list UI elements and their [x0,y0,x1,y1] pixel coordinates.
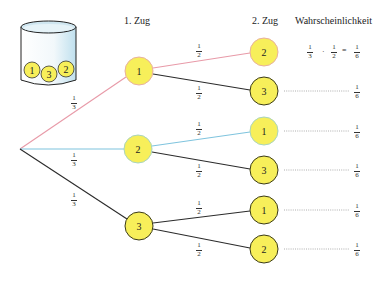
svg-text:1: 1 [262,205,267,216]
prob-3-2: 12 [195,242,203,258]
result-3-2: 16 [353,242,361,258]
svg-text:1: 1 [137,66,142,77]
node-second-2-1: 1 [250,117,278,145]
svg-text:1: 1 [30,65,35,76]
prob-2-1: 12 [195,121,203,137]
result-3-1: 16 [353,203,361,219]
svg-text:3: 3 [137,221,142,232]
urn-icon: 1 3 2 [21,21,76,85]
result-dotted-lines [284,91,350,249]
prob-3-1: 12 [195,200,203,216]
prob-root-1: 13 [70,95,78,111]
node-first-3: 3 [125,212,153,240]
node-first-1: 1 [125,57,153,85]
svg-text:1: 1 [262,126,267,137]
formula-b: 12 [330,44,338,60]
svg-text:2: 2 [64,64,69,75]
prob-1-2: 12 [195,43,203,59]
result-2-1: 16 [353,124,361,140]
prob-1-3: 12 [195,85,203,101]
prob-root-2: 13 [70,152,78,168]
formula-a: 13 [306,44,314,60]
svg-text:2: 2 [262,244,267,255]
svg-text:3: 3 [47,69,52,80]
node-second-2-3: 3 [250,156,278,184]
svg-text:2: 2 [136,144,141,155]
node-first-2: 2 [124,135,152,163]
svg-text:3: 3 [262,86,267,97]
prob-2-3: 12 [195,163,203,179]
node-second-1-3: 3 [250,77,278,105]
probability-tree: 1 3 2 1 2 3 2 3 1 [0,0,384,283]
branch-root-1 [20,77,126,149]
svg-text:2: 2 [262,47,267,58]
node-second-3-2: 2 [250,235,278,263]
node-second-1-2: 2 [250,38,278,66]
formula-equals: = [342,46,347,55]
result-2-3: 16 [353,163,361,179]
node-second-3-1: 1 [250,196,278,224]
result-1-3: 16 [353,84,361,100]
prob-root-3: 13 [70,192,78,208]
svg-text:3: 3 [262,165,267,176]
formula-c: 16 [353,44,361,60]
formula-dot: · [322,47,325,56]
